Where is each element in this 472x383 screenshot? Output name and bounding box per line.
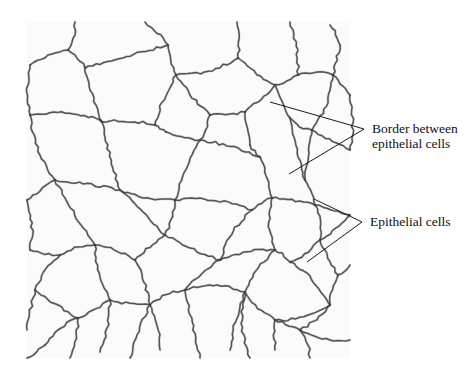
label-border-between-cells: Border between epithelial cells: [372, 121, 458, 151]
label-border-line1: Border between: [372, 121, 458, 136]
epithelium-figure: [0, 0, 472, 383]
label-epithelial-cells: Epithelial cells: [370, 214, 451, 229]
label-cells-text: Epithelial cells: [370, 214, 451, 229]
label-border-line2: epithelial cells: [372, 136, 458, 151]
